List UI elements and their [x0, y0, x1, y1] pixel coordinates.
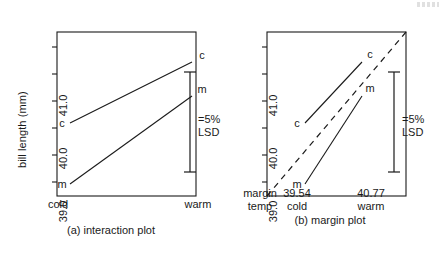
series-point-label-c-cold-b: c [294, 117, 300, 129]
plot-frame-b [267, 32, 406, 196]
y-axis-ticks-b [262, 47, 267, 182]
series-line-c-b [305, 62, 362, 123]
figure-container: bill length (mm) 39.0 40.0 41.0 cold war… [0, 0, 445, 257]
panel-caption-a: (a) interaction plot [0, 224, 222, 236]
lsd-error-bar [184, 72, 196, 172]
panel-caption-b: (b) margin plot [230, 214, 430, 226]
lsd-error-bar-b [388, 72, 400, 172]
series-point-label-c-warm: c [199, 49, 205, 61]
series-point-label-m-cold-b: m [292, 178, 301, 190]
series-point-label-c-warm-b: c [367, 48, 373, 60]
series-line-c [70, 62, 192, 123]
series-point-label-c-cold: c [59, 117, 65, 129]
series-line-m [70, 96, 192, 184]
plot-frame [57, 32, 196, 196]
series-line-m-b [305, 96, 362, 184]
plot-area-interaction: c c m m [0, 0, 222, 257]
series-point-label-m-cold: m [57, 178, 66, 190]
y-axis-ticks [52, 47, 57, 182]
panel-margin-plot: 39.0 40.0 41.0 margin temp 39.54 cold 40… [222, 0, 445, 257]
series-point-label-m-warm-b: m [365, 82, 374, 94]
reference-line-identity [267, 32, 406, 196]
panel-interaction-plot: bill length (mm) 39.0 40.0 41.0 cold war… [0, 0, 222, 257]
series-point-label-m-warm: m [197, 83, 206, 95]
